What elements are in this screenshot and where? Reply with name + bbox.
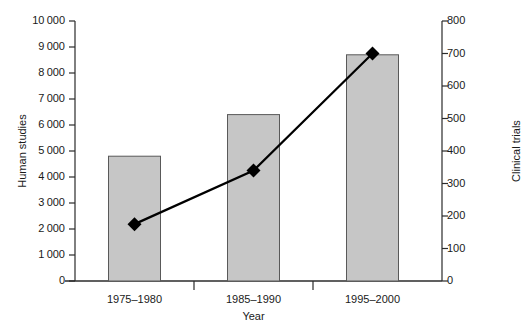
plot-area [0, 0, 522, 333]
chart-figure: Human studies Clinical trials Year 01 00… [0, 0, 522, 333]
